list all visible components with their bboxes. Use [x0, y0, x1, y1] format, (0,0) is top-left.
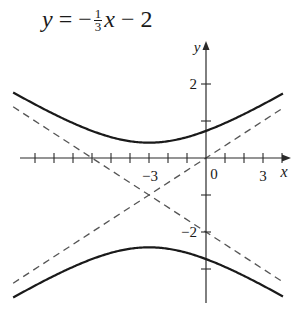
y-axis-arrow-icon [203, 41, 210, 50]
hyperbola-upper-branch [13, 92, 283, 142]
y-tick-label: 2 [190, 76, 198, 92]
asymptote-line-positive [13, 108, 283, 283]
asymptote-line-negative [13, 107, 283, 282]
hyperbola-lower-branch [13, 247, 283, 297]
x-tick-label: −3 [142, 168, 158, 184]
hyperbola-diagram: y = −13x − 2 xy−3032−2 [0, 0, 307, 318]
x-axis-label: x [279, 163, 287, 180]
x-tick-label: 3 [259, 168, 267, 184]
plot-area: xy−3032−2 [0, 0, 307, 318]
asymptote-lines [13, 107, 283, 283]
x-axis-arrow-icon [282, 155, 291, 162]
y-tick-label: −2 [181, 224, 197, 240]
axis-labels: xy−3032−2 [142, 39, 288, 240]
y-axis-label: y [192, 39, 201, 55]
x-tick-label: 0 [210, 166, 218, 182]
